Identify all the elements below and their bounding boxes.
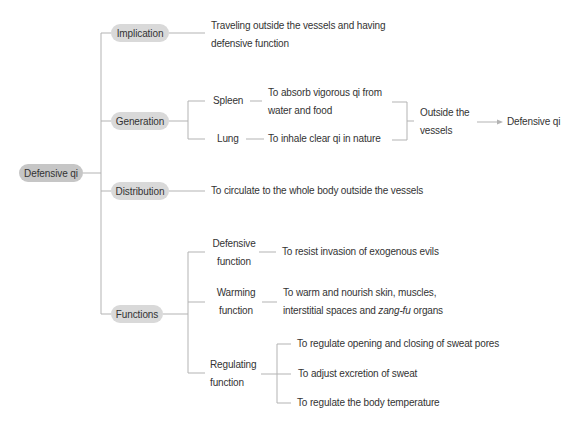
defensive-desc-line-1: To resist invasion of exogenous evils (282, 243, 439, 261)
regulating-desc-1: To regulate opening and closing of sweat… (297, 335, 499, 353)
branch-node-generation: Generation (111, 112, 169, 130)
defensive-function-line-1: Defensive (208, 235, 260, 253)
source-lung: Lung (217, 130, 239, 148)
spleen-description: To absorb vigorous qi from water and foo… (268, 84, 382, 120)
lung-desc-line-1: To inhale clear qi in nature (268, 130, 381, 148)
defensive-function-line-2: function (208, 253, 260, 271)
warming-desc-line-1: To warm and nourish skin, muscles, (283, 284, 443, 302)
defensive-function-description: To resist invasion of exogenous evils (282, 243, 439, 261)
regulating-function-line-2: function (210, 374, 256, 392)
function-defensive: Defensive function (208, 235, 260, 271)
function-warming: Warming function (210, 284, 262, 320)
regulating-desc-excretion: To adjust excretion of sweat (298, 365, 417, 383)
branch-node-implication: Implication (111, 24, 169, 42)
result-label: Defensive qi (507, 113, 560, 131)
distribution-label: Distribution (116, 186, 165, 197)
regulating-desc-2: To adjust excretion of sweat (298, 365, 417, 383)
implication-label: Implication (117, 28, 164, 39)
warming-desc-line-2: interstitial spaces and zang-fu organs (283, 302, 443, 320)
mind-map-canvas: Defensive qi Implication Traveling outsi… (0, 0, 577, 428)
lung-label: Lung (217, 130, 239, 148)
warming-desc-text: interstitial spaces and (283, 305, 378, 316)
functions-label: Functions (116, 309, 158, 320)
warming-function-line-2: function (210, 302, 262, 320)
regulating-desc-temperature: To regulate the body temperature (297, 394, 440, 412)
warming-function-description: To warm and nourish skin, muscles, inter… (283, 284, 443, 320)
branch-node-functions: Functions (111, 305, 163, 323)
regulating-desc-sweat-pores: To regulate opening and closing of sweat… (297, 335, 499, 353)
source-spleen: Spleen (213, 92, 243, 110)
merge-outside-vessels: Outside the vessels (420, 104, 470, 140)
implication-description: Traveling outside the vessels and having… (211, 17, 385, 53)
result-defensive-qi: Defensive qi (507, 113, 560, 131)
lung-description: To inhale clear qi in nature (268, 130, 381, 148)
regulating-function-line-1: Regulating (210, 356, 256, 374)
root-label: Defensive qi (24, 168, 78, 179)
root-node-defensive-qi: Defensive qi (19, 164, 83, 182)
merge-line-2: vessels (420, 122, 470, 140)
warming-function-line-1: Warming (210, 284, 262, 302)
spleen-label: Spleen (213, 92, 243, 110)
distribution-description: To circulate to the whole body outside t… (211, 182, 423, 200)
warming-desc-italic-term: zang-fu (378, 305, 410, 316)
merge-line-1: Outside the (420, 104, 470, 122)
regulating-desc-3: To regulate the body temperature (297, 394, 440, 412)
connector-lines (0, 0, 577, 428)
implication-desc-line-1: Traveling outside the vessels and having (211, 17, 385, 35)
generation-label: Generation (116, 116, 164, 127)
warming-desc-tail: organs (411, 305, 443, 316)
distribution-desc-line: To circulate to the whole body outside t… (211, 182, 423, 200)
function-regulating: Regulating function (210, 356, 256, 392)
branch-node-distribution: Distribution (111, 182, 169, 200)
implication-desc-line-2: defensive function (211, 35, 385, 53)
spleen-desc-line-2: water and food (268, 102, 382, 120)
spleen-desc-line-1: To absorb vigorous qi from (268, 84, 382, 102)
